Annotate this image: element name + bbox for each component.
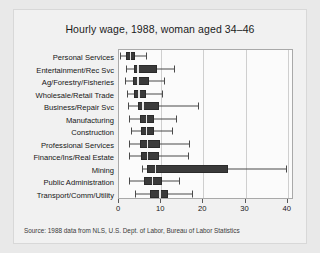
median-line	[142, 102, 144, 110]
median-line	[147, 140, 149, 148]
whisker-high	[168, 193, 192, 194]
box-iqr	[138, 102, 160, 110]
source-note: Source: 1988 data from NLS, U.S. Dept. o…	[24, 227, 240, 234]
boxplot-row	[119, 163, 292, 175]
x-tick	[160, 199, 161, 203]
boxplot-row	[119, 75, 292, 87]
category-label: Mining	[92, 167, 114, 175]
category-label: Entertainment/Rec Svc	[36, 67, 114, 75]
x-tick-label: 0	[116, 204, 120, 213]
x-tick	[202, 199, 203, 203]
boxplot-row	[119, 50, 292, 62]
boxplot-row	[119, 150, 292, 162]
category-label: Manufacturing	[66, 117, 114, 125]
whisker-low	[125, 81, 133, 82]
median-line	[138, 90, 140, 98]
whisker-low	[129, 156, 141, 157]
whisker-cap-low	[129, 115, 130, 122]
category-label: Personal Services	[53, 54, 114, 62]
whisker-high	[157, 68, 174, 69]
box-iqr	[140, 115, 154, 123]
whisker-high	[159, 106, 198, 107]
category-label: Public Administration	[44, 179, 115, 187]
whisker-high	[154, 118, 176, 119]
category-label: Ag/Forestry/Fisheries	[42, 79, 114, 87]
median-line	[159, 190, 161, 198]
x-tick	[245, 199, 246, 203]
whisker-cap-low	[129, 153, 130, 160]
category-label: Wholesale/Retail Trade	[35, 92, 114, 100]
category-label: Finance/Ins/Real Estate	[33, 154, 114, 162]
median-line	[147, 152, 149, 160]
whisker-cap-low	[129, 140, 130, 147]
whisker-cap-low	[142, 165, 143, 172]
plot-area: Personal ServicesEntertainment/Rec SvcAg…	[14, 46, 308, 224]
whisker-cap-high	[176, 115, 177, 122]
category-label: Transport/Comm/Utility	[37, 192, 114, 200]
whisker-low	[129, 143, 140, 144]
x-tick-label: 10	[156, 204, 164, 213]
whisker-cap-high	[146, 53, 147, 60]
whisker-high	[228, 168, 286, 169]
whisker-low	[129, 181, 144, 182]
median-line	[137, 65, 139, 73]
whisker-low	[129, 118, 140, 119]
category-label: Professional Services	[41, 142, 114, 150]
x-tick	[287, 199, 288, 203]
whisker-cap-low	[128, 103, 129, 110]
whisker-cap-low	[125, 78, 126, 85]
whisker-cap-high	[198, 103, 199, 110]
boxplot-row	[119, 175, 292, 187]
boxplot-row	[119, 188, 292, 200]
whisker-high	[159, 156, 188, 157]
whisker-high	[160, 143, 189, 144]
box-iqr	[141, 152, 158, 160]
whisker-high	[135, 56, 145, 57]
whisker-low	[128, 106, 138, 107]
whisker-cap-high	[162, 90, 163, 97]
boxplot-row	[119, 88, 292, 100]
whisker-cap-high	[172, 128, 173, 135]
median-line	[155, 165, 157, 173]
whisker-cap-high	[286, 165, 287, 172]
whisker-low	[135, 193, 150, 194]
x-axis: 010203040	[118, 199, 293, 221]
whisker-cap-low	[131, 128, 132, 135]
whisker-high	[149, 81, 164, 82]
whisker-low	[127, 93, 134, 94]
box-iqr	[133, 77, 149, 85]
box-iqr	[147, 165, 228, 173]
x-tick	[118, 199, 119, 203]
boxplot-row	[119, 63, 292, 75]
box-iqr	[140, 140, 160, 148]
median-line	[146, 127, 148, 135]
whisker-cap-high	[174, 65, 175, 72]
whisker-cap-low	[135, 190, 136, 197]
boxplot-row	[119, 113, 292, 125]
whisker-high	[146, 93, 162, 94]
whisker-cap-high	[189, 140, 190, 147]
category-label: Construction	[71, 129, 114, 137]
chart-title: Hourly wage, 1988, woman aged 34–46	[14, 23, 306, 35]
boxplot-row	[119, 125, 292, 137]
boxplot-row	[119, 100, 292, 112]
x-tick-label: 20	[198, 204, 206, 213]
median-line	[130, 52, 132, 60]
whisker-cap-high	[164, 78, 165, 85]
whisker-cap-high	[192, 190, 193, 197]
category-label: Business/Repair Svc	[44, 104, 114, 112]
whisker-cap-low	[126, 65, 127, 72]
x-tick-label: 30	[240, 204, 248, 213]
whisker-high	[162, 181, 179, 182]
median-line	[137, 77, 139, 85]
chart-figure: Hourly wage, 1988, woman aged 34–46 Pers…	[13, 9, 307, 244]
whisker-cap-low	[129, 178, 130, 185]
whisker-cap-low	[127, 90, 128, 97]
plot-frame	[118, 49, 293, 199]
whisker-cap-high	[179, 178, 180, 185]
category-axis-labels: Personal ServicesEntertainment/Rec SvcAg…	[14, 49, 114, 199]
whisker-cap-low	[120, 53, 121, 60]
boxplot-row	[119, 138, 292, 150]
x-tick-label: 40	[282, 204, 290, 213]
whisker-high	[154, 131, 172, 132]
